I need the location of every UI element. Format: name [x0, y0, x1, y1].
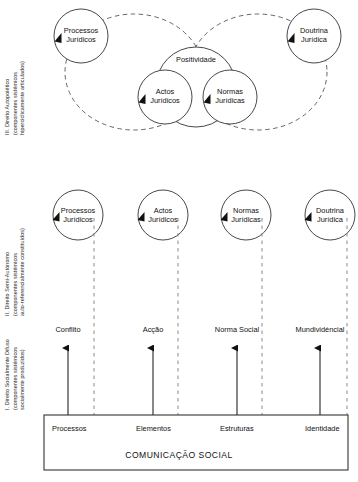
- mid-node-circle-processos[interactable]: [53, 190, 103, 240]
- level-label-ii: II. Direito Semi-Autónomo (componentes s…: [4, 228, 27, 316]
- level-label-i-line1: I. Direito Socialmente Difuso: [4, 339, 12, 410]
- arrow-label-mundividencial: Mundividéncial: [282, 325, 358, 334]
- top-node-circle-normas[interactable]: [203, 70, 257, 124]
- level-label-iii: III. Direito Autopoiético (componentes s…: [4, 61, 27, 135]
- bottom-arrows: [68, 348, 320, 415]
- top-node-circle-processos[interactable]: [54, 9, 108, 63]
- level-label-ii-line2: (componentes sistémicos: [12, 228, 20, 316]
- level-label-ii-line1: II. Direito Semi-Autónomo: [4, 228, 12, 316]
- level-label-iii-line3: hiperciclicamente articulados): [19, 61, 27, 135]
- box-column-estruturas: Estruturas: [220, 424, 254, 433]
- level-label-iii-line1: III. Direito Autopoiético: [4, 61, 12, 135]
- top-node-circle-actos[interactable]: [138, 70, 192, 124]
- diagram-svg: [0, 0, 358, 482]
- box-column-processos: Processos: [52, 424, 87, 433]
- mid-node-circle-normas[interactable]: [221, 190, 271, 240]
- arrow-label-norma-social: Norma Social: [203, 325, 271, 334]
- mid-node-circle-actos[interactable]: [138, 190, 188, 240]
- column-dashed-separators: [94, 218, 347, 415]
- mid-node-circle-doutrina[interactable]: [305, 190, 355, 240]
- figure-canvas: III. Direito Autopoiético (componentes s…: [0, 0, 358, 482]
- comunicacao-social-box[interactable]: [44, 415, 348, 470]
- box-column-elementos: Elementos: [136, 424, 171, 433]
- box-column-identidade: Identidade: [305, 424, 340, 433]
- level-label-ii-line3: auto-referencialmente constituídos): [19, 228, 27, 316]
- arrow-label-conflito: Conflito: [38, 325, 98, 334]
- level-label-i-line3: socialmente produzidos): [19, 339, 27, 410]
- top-node-circle-doutrina[interactable]: [287, 9, 341, 63]
- positividade-label: Positividade: [161, 55, 231, 64]
- arrow-label-accao: Acção: [123, 325, 183, 334]
- level-label-iii-line2: (componentes sistémicos: [12, 61, 20, 135]
- comunicacao-social-title: COMUNICAÇÃO SOCIAL: [0, 450, 358, 460]
- level-label-i: I. Direito Socialmente Difuso (component…: [4, 339, 27, 410]
- top-solid-shapes: [54, 9, 341, 127]
- level-label-i-line2: (componentes sistémicos: [12, 339, 20, 410]
